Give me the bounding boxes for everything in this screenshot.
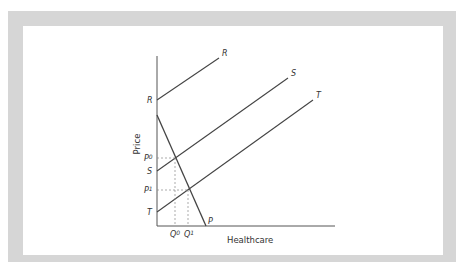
label-q1-sup: 1 bbox=[190, 229, 194, 236]
label-t-start: T bbox=[147, 208, 153, 217]
label-t-end: T bbox=[316, 91, 322, 100]
label-r-start: R bbox=[147, 96, 153, 105]
label-p0-sup: 0 bbox=[149, 153, 153, 160]
label-q1: Q1 bbox=[184, 229, 194, 239]
curve-s bbox=[157, 78, 288, 171]
label-q0-sup: 0 bbox=[176, 229, 180, 236]
curve-r bbox=[157, 58, 219, 100]
label-r-end: R bbox=[222, 49, 228, 58]
label-p-end: P bbox=[208, 217, 213, 226]
x-axis-title: Healthcare bbox=[227, 235, 273, 245]
supply-demand-diagram: R S T P R S T P0 P1 Q0 Q1 Healthcare Pri… bbox=[0, 0, 464, 270]
curve-t bbox=[157, 100, 313, 212]
label-p1: P1 bbox=[144, 185, 153, 195]
curve-p-demand bbox=[157, 115, 206, 226]
y-axis-title: Price bbox=[132, 134, 142, 155]
label-s-end: S bbox=[291, 69, 296, 78]
label-q0: Q0 bbox=[170, 229, 180, 239]
label-p1-sup: 1 bbox=[149, 185, 153, 192]
label-p0: P0 bbox=[144, 153, 153, 163]
label-s-start: S bbox=[147, 167, 152, 176]
